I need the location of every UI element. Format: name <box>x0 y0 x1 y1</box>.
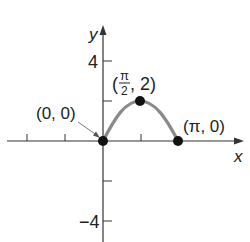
origin-label: (0, 0) <box>36 104 76 123</box>
pi-label: (π, 0) <box>183 117 225 136</box>
peak-label-num: π <box>120 68 129 83</box>
x-axis-label: x <box>233 147 243 166</box>
y-axis-arrow-icon <box>100 25 107 35</box>
y-axis-label: y <box>88 25 99 44</box>
point-origin <box>98 136 108 146</box>
peak-label-open: ( <box>112 74 118 94</box>
point-peak <box>135 96 145 106</box>
point-pi <box>173 136 183 146</box>
origin-pointer-arrow-icon <box>93 132 100 139</box>
x-axis-arrow-icon <box>234 138 244 145</box>
peak-label-den: 2 <box>121 84 128 98</box>
graph: y x 4 −4 (0, 0) ( π 2 , 2) (π, 0) <box>0 0 250 242</box>
y-tick-label-neg4: −4 <box>79 212 100 232</box>
y-tick-label-4: 4 <box>88 52 98 72</box>
peak-label-close: , 2) <box>130 74 156 94</box>
